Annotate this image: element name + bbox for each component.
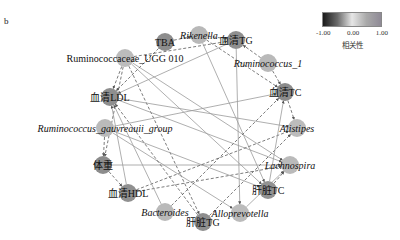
node-label: Bacteroides — [141, 207, 189, 218]
node-label: TBA — [155, 37, 176, 48]
edge-RUGG010-serumLDL — [113, 66, 122, 88]
legend-title: 相关性 — [316, 39, 388, 50]
edge-RUGG010-Lachnospira — [133, 63, 283, 160]
node-liverTC: 肝脏TC — [252, 181, 285, 199]
node-RUGG010: Ruminococcaceae_UGG 010 — [67, 49, 184, 67]
colorbar — [322, 12, 382, 27]
node-weight: 体重 — [93, 156, 113, 174]
edge-Rum1-serumTG — [243, 45, 260, 57]
tick-min: -1.00 — [316, 29, 331, 37]
node-TBA: TBA — [155, 33, 176, 51]
tick-mid: 0.00 — [347, 29, 359, 37]
node-layer: TBARikenella血清TGRuminococcus_1血清TCAlisti… — [37, 26, 316, 231]
edge-Rum1-serumTC — [273, 71, 281, 84]
node-label: Ruminococcaceae_UGG 010 — [67, 53, 184, 64]
node-label: 血清TG — [219, 34, 252, 46]
node-serumTC: 血清TC — [269, 83, 302, 101]
edge-liverTC-Lachnospira — [274, 172, 284, 183]
node-label: 血清LDL — [90, 91, 129, 103]
edge-Rgauv-weight — [103, 137, 104, 156]
edge-serumHDL-serumLDL — [112, 106, 127, 184]
node-label: Ruminococcus_1 — [233, 58, 302, 69]
node-Alistipes: Alistipes — [279, 119, 315, 137]
node-label: 血清TC — [269, 86, 302, 98]
edge-serumTC-Alistipes — [288, 101, 294, 120]
node-Bacteroides: Bacteroides — [141, 203, 189, 221]
node-label: 肝脏TC — [252, 184, 285, 196]
color-legend: -1.00 0.00 1.00 相关性 — [316, 12, 388, 50]
edge-Rgauv-liverTC — [113, 131, 259, 187]
edge-serumTG-Alloprevotella — [236, 49, 240, 204]
node-label: Ruminococcus_gauvreauii_group — [37, 123, 173, 134]
node-label: Alistipes — [279, 123, 315, 134]
node-label: 肝脏TG — [186, 216, 219, 228]
node-Rikenella: Rikenella — [179, 26, 218, 44]
node-serumTG: 血清TG — [219, 31, 252, 49]
node-label: 体重 — [93, 159, 113, 171]
node-liverTG: 肝脏TG — [186, 213, 219, 231]
edge-serumTG-serumLDL — [118, 44, 228, 94]
node-Rgauv: Ruminococcus_gauvreauii_group — [37, 119, 173, 137]
node-label: 血清HDL — [108, 187, 149, 199]
edge-weight-serumHDL — [109, 172, 122, 187]
edge-Rgauv-serumTC — [114, 94, 276, 126]
node-label: Rikenella — [179, 30, 218, 41]
node-serumHDL: 血清HDL — [108, 184, 149, 202]
colorbar-ticks: -1.00 0.00 1.00 — [316, 29, 388, 37]
node-Rum1: Ruminococcus_1 — [233, 54, 302, 72]
edge-RUGG010-weight — [105, 67, 123, 156]
node-serumLDL: 血清LDL — [90, 88, 129, 106]
node-label: Lachnospira — [264, 160, 316, 171]
tick-max: 1.00 — [376, 29, 388, 37]
